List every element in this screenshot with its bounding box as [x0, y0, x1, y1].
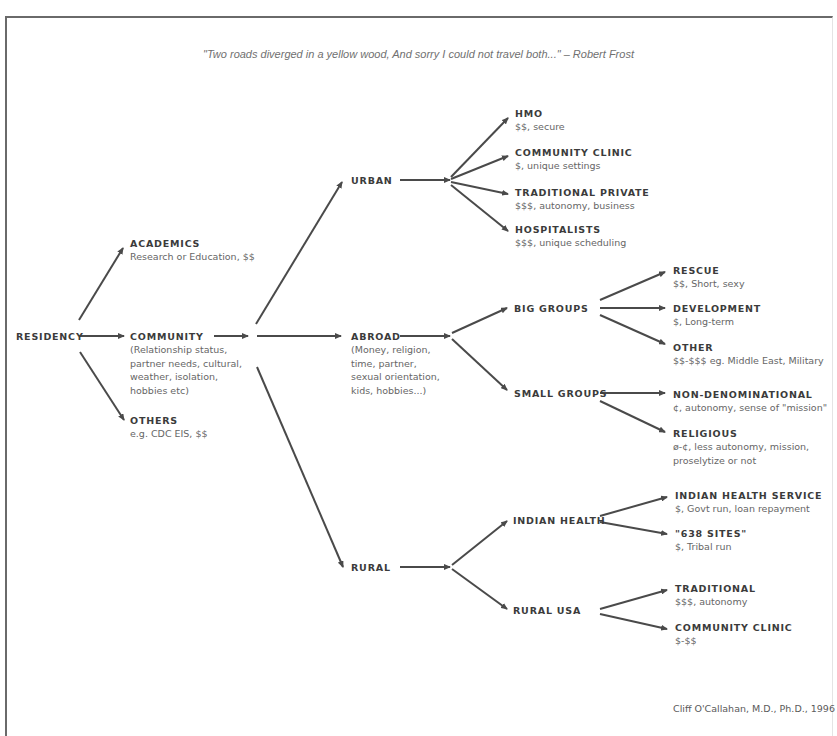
arrow-abroad-big-groups: [452, 308, 507, 333]
node-title: RELIGIOUS: [673, 427, 809, 440]
node-rural-community-clinic: COMMUNITY CLINIC $-$$: [675, 621, 793, 648]
arrow-junction-rural: [257, 367, 343, 567]
arrow-abroad-small-groups: [452, 339, 507, 390]
node-desc: ø-¢, less autonomy, mission, proselytize…: [673, 440, 809, 467]
node-desc: $, Tribal run: [675, 540, 747, 554]
node-title: OTHERS: [130, 414, 208, 427]
node-title: HOSPITALISTS: [515, 223, 626, 236]
node-rural-usa: RURAL USA: [513, 604, 581, 617]
node-title: TRADITIONAL PRIVATE: [515, 186, 650, 199]
arrow-big-groups-rescue: [600, 272, 665, 300]
node-title: RESCUE: [673, 264, 745, 277]
node-rural: RURAL: [351, 561, 391, 574]
arrow-indian-health-ihs: [600, 497, 667, 516]
node-abroad: ABROAD (Money, religion, time, partner, …: [351, 330, 440, 397]
arrow-rural-usa-community-clinic: [600, 614, 667, 629]
node-desc: $$$, unique scheduling: [515, 236, 626, 250]
node-religious: RELIGIOUS ø-¢, less autonomy, mission, p…: [673, 427, 809, 467]
node-desc: $$$, autonomy, business: [515, 199, 650, 213]
node-title: "638 SITES": [675, 527, 747, 540]
node-rescue: RESCUE $$, Short, sexy: [673, 264, 745, 291]
node-title: COMMUNITY CLINIC: [675, 621, 793, 634]
node-desc: $$-$$$ eg. Middle East, Military: [673, 354, 824, 368]
node-desc: (Money, religion, time, partner, sexual …: [351, 343, 440, 397]
arrow-indian-health-638: [600, 522, 667, 534]
node-residency: RESIDENCY: [16, 330, 84, 343]
node-title: RESIDENCY: [16, 330, 84, 343]
arrow-small-groups-religious: [600, 401, 665, 432]
node-desc: Research or Education, $$: [130, 250, 255, 264]
node-title: INDIAN HEALTH: [513, 514, 606, 527]
node-traditional: TRADITIONAL $$$, autonomy: [675, 582, 756, 609]
node-title: ABROAD: [351, 330, 440, 343]
node-title: URBAN: [351, 174, 393, 187]
arrow-residency-others: [80, 352, 124, 420]
arrow-rural-indian-health: [452, 521, 507, 565]
node-non-denominational: NON-DENOMINATIONAL ¢, autonomy, sense of…: [673, 388, 827, 415]
node-title: NON-DENOMINATIONAL: [673, 388, 827, 401]
node-desc: $-$$: [675, 634, 793, 648]
arrow-rural-rural-usa: [452, 569, 507, 609]
node-hospitalists: HOSPITALISTS $$$, unique scheduling: [515, 223, 626, 250]
node-title: HMO: [515, 107, 565, 120]
node-title: COMMUNITY: [130, 330, 242, 343]
node-desc: $$, secure: [515, 120, 565, 134]
node-indian-health: INDIAN HEALTH: [513, 514, 606, 527]
arrow-junction-urban: [256, 182, 342, 324]
node-hmo: HMO $$, secure: [515, 107, 565, 134]
node-big-groups: BIG GROUPS: [514, 302, 589, 315]
node-development: DEVELOPMENT $, Long-term: [673, 302, 761, 329]
arrow-big-groups-other: [600, 315, 665, 344]
node-small-groups: SMALL GROUPS: [514, 387, 607, 400]
node-desc: $, Long-term: [673, 315, 761, 329]
node-desc: $, Govt run, loan repayment: [675, 502, 822, 516]
node-desc: ¢, autonomy, sense of "mission": [673, 401, 827, 415]
arrow-rural-usa-traditional: [600, 590, 667, 609]
node-desc: $, unique settings: [515, 159, 633, 173]
node-title: COMMUNITY CLINIC: [515, 146, 633, 159]
node-indian-health-service: INDIAN HEALTH SERVICE $, Govt run, loan …: [675, 489, 822, 516]
node-title: OTHER: [673, 341, 824, 354]
node-title: DEVELOPMENT: [673, 302, 761, 315]
node-638-sites: "638 SITES" $, Tribal run: [675, 527, 747, 554]
node-desc: $$, Short, sexy: [673, 277, 745, 291]
node-other: OTHER $$-$$$ eg. Middle East, Military: [673, 341, 824, 368]
node-academics: ACADEMICS Research or Education, $$: [130, 237, 255, 264]
node-title: RURAL USA: [513, 604, 581, 617]
node-others: OTHERS e.g. CDC EIS, $$: [130, 414, 208, 441]
node-title: ACADEMICS: [130, 237, 255, 250]
node-desc: e.g. CDC EIS, $$: [130, 427, 208, 441]
node-title: RURAL: [351, 561, 391, 574]
node-urban-community-clinic: COMMUNITY CLINIC $, unique settings: [515, 146, 633, 173]
epigraph-quote: "Two roads diverged in a yellow wood, An…: [0, 48, 837, 60]
node-title: INDIAN HEALTH SERVICE: [675, 489, 822, 502]
node-urban: URBAN: [351, 174, 393, 187]
node-desc: (Relationship status, partner needs, cul…: [130, 343, 242, 397]
node-title: TRADITIONAL: [675, 582, 756, 595]
node-desc: $$$, autonomy: [675, 595, 756, 609]
node-community: COMMUNITY (Relationship status, partner …: [130, 330, 242, 397]
arrow-residency-academics: [79, 248, 123, 320]
node-traditional-private: TRADITIONAL PRIVATE $$$, autonomy, busin…: [515, 186, 650, 213]
author-credit: Cliff O'Callahan, M.D., Ph.D., 1996: [673, 703, 835, 714]
node-title: SMALL GROUPS: [514, 387, 607, 400]
node-title: BIG GROUPS: [514, 302, 589, 315]
